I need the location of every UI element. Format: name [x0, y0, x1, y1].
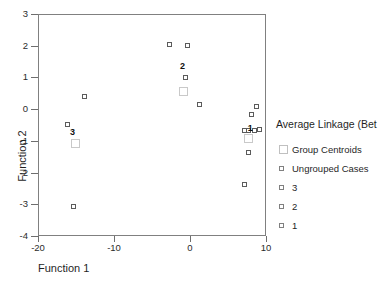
- x-tick-label: 0: [170, 243, 210, 253]
- data-point: [185, 43, 190, 48]
- data-point: [71, 204, 76, 209]
- cluster-label: 1: [248, 124, 253, 133]
- legend-marker-icon: [278, 182, 292, 194]
- y-tick-label: -1: [0, 136, 28, 146]
- y-axis-title: Function 2: [16, 106, 28, 206]
- legend-marker-icon: [278, 144, 292, 156]
- x-tick-label: 10: [246, 243, 286, 253]
- legend-marker-icon: [278, 201, 292, 213]
- legend-item: Group Centroids: [278, 140, 381, 159]
- data-point: [197, 102, 202, 107]
- legend-item: Ungrouped Cases: [278, 159, 381, 178]
- data-point: [246, 150, 251, 155]
- x-tick-label: -20: [18, 243, 58, 253]
- y-tick-label: 1: [0, 72, 28, 82]
- x-axis-title: Function 1: [38, 262, 89, 274]
- cluster-label: 2: [180, 61, 185, 70]
- y-tick: [31, 141, 38, 142]
- y-tick: [31, 109, 38, 110]
- x-tick-label: -10: [94, 243, 134, 253]
- y-tick: [31, 14, 38, 15]
- legend-item: 3: [278, 178, 381, 197]
- legend-marker-icon: [278, 163, 292, 175]
- cluster-label: 3: [70, 128, 75, 137]
- centroid-marker: [244, 134, 253, 143]
- legend-marker-icon: [278, 220, 292, 232]
- legend-item-label: 1: [292, 220, 297, 231]
- data-point: [183, 75, 188, 80]
- legend: Average Linkage (Bet Group CentroidsUngr…: [276, 118, 381, 235]
- data-point: [249, 112, 254, 117]
- y-tick-label: -3: [0, 199, 28, 209]
- legend-item: 2: [278, 197, 381, 216]
- y-tick-label: 3: [0, 9, 28, 19]
- data-point: [257, 127, 262, 132]
- y-tick: [31, 236, 38, 237]
- chart-root: Function 2 Function 1 3210-1-2-3-4-20-10…: [0, 0, 381, 294]
- plot-area: 321: [38, 14, 266, 236]
- y-tick-label: -4: [0, 231, 28, 241]
- y-tick: [31, 77, 38, 78]
- data-point: [167, 42, 172, 47]
- legend-item: 1: [278, 216, 381, 235]
- y-tick-label: 2: [0, 41, 28, 51]
- data-point: [254, 104, 259, 109]
- y-tick-label: -2: [0, 168, 28, 178]
- data-point: [242, 182, 247, 187]
- legend-title: Average Linkage (Bet: [276, 118, 381, 130]
- legend-item-label: Group Centroids: [292, 144, 362, 155]
- legend-item-label: Ungrouped Cases: [292, 163, 369, 174]
- y-tick: [31, 204, 38, 205]
- data-point: [65, 122, 70, 127]
- data-point: [82, 94, 87, 99]
- legend-rows: Group CentroidsUngrouped Cases321: [276, 140, 381, 235]
- centroid-marker: [179, 87, 188, 96]
- y-tick: [31, 173, 38, 174]
- legend-item-label: 3: [292, 182, 297, 193]
- legend-item-label: 2: [292, 201, 297, 212]
- y-tick: [31, 46, 38, 47]
- centroid-marker: [71, 139, 80, 148]
- y-tick-label: 0: [0, 104, 28, 114]
